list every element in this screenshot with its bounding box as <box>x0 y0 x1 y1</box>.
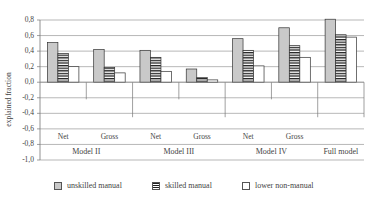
x-category-label: Net <box>225 132 271 141</box>
bar-lower <box>68 67 79 83</box>
legend-item-skilled: skilled manual <box>152 181 212 190</box>
legend: unskilled manual skilled manual lower no… <box>0 181 372 195</box>
bar-lower <box>115 73 126 82</box>
y-tick-label: 0,4 <box>8 46 34 55</box>
bar-skilled <box>150 57 161 82</box>
legend-label: skilled manual <box>165 181 212 190</box>
y-axis-label: explained fraction <box>4 65 13 135</box>
bar-unskilled <box>186 69 197 82</box>
white-swatch-icon <box>242 182 250 190</box>
bar-lower <box>346 37 357 82</box>
bar-chart: 0,80,60,40,20,0-0,2-0,4-0,6-0,8-1,0 expl… <box>0 0 372 201</box>
striped-swatch-icon <box>152 182 160 190</box>
x-category-label: Gross <box>179 132 225 141</box>
legend-item-lower: lower non-manual <box>242 181 313 190</box>
bar-unskilled <box>325 19 336 82</box>
bar-unskilled <box>279 28 290 82</box>
x-category-label: Net <box>40 132 86 141</box>
bar-skilled <box>104 67 115 82</box>
y-tick-label: 0,6 <box>8 31 34 40</box>
bar-lower <box>300 57 311 82</box>
gray-swatch-icon <box>54 182 62 190</box>
x-category-label: Gross <box>86 132 132 141</box>
bar-skilled <box>289 46 300 83</box>
x-category-label: Gross <box>271 132 317 141</box>
legend-label: lower non-manual <box>255 181 313 190</box>
bar-lower <box>254 66 264 82</box>
y-tick-label: -1,0 <box>8 155 34 164</box>
y-tick-label: -0,8 <box>8 139 34 148</box>
plot-area <box>0 0 372 201</box>
bar-unskilled <box>94 50 105 83</box>
bar-unskilled <box>47 43 58 83</box>
legend-label: unskilled manual <box>67 181 122 190</box>
bar-unskilled <box>140 50 151 82</box>
bar-skilled <box>243 50 254 82</box>
bar-unskilled <box>233 39 244 83</box>
legend-item-unskilled: unskilled manual <box>54 181 122 190</box>
bar-lower <box>161 71 172 82</box>
bar-skilled <box>336 35 347 82</box>
x-group-label: Model IV <box>225 147 318 156</box>
bar-skilled <box>58 53 68 82</box>
x-group-label: Full model <box>318 147 364 156</box>
x-group-label: Model III <box>133 147 226 156</box>
bar-skilled <box>197 78 208 83</box>
x-group-label: Model II <box>40 147 133 156</box>
x-category-label: Net <box>133 132 179 141</box>
y-tick-label: 0,8 <box>8 15 34 24</box>
